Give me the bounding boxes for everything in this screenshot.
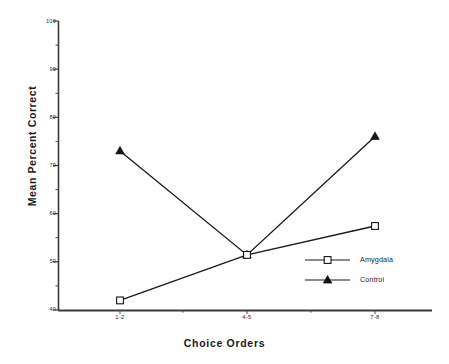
series-line-amygdala <box>120 226 375 300</box>
legend-item-amygdala <box>305 257 350 264</box>
chart-figure: Mean Percent Correct Choice Orders 100 9… <box>0 0 449 364</box>
data-point-amygdala-1-2 <box>117 297 124 304</box>
legend-marker-filled-triangle-icon <box>323 276 332 284</box>
plot-canvas <box>0 0 449 364</box>
legend-marker-open-square-icon <box>324 257 331 264</box>
series-markers-control <box>116 132 380 258</box>
series-line-control <box>120 136 375 255</box>
legend-item-control <box>305 276 350 284</box>
data-point-control-7-8 <box>371 132 380 140</box>
data-point-amygdala-4-5 <box>244 252 251 259</box>
data-point-control-1-2 <box>116 146 125 154</box>
y-major-ticks <box>53 21 59 310</box>
data-point-amygdala-7-8 <box>372 223 379 230</box>
